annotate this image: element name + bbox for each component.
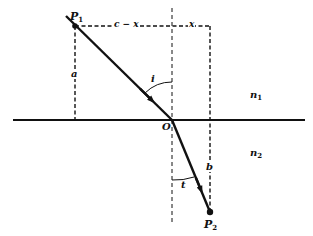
refraction-diagram	[0, 0, 313, 236]
label-x: x	[188, 20, 195, 29]
label-b: b	[206, 162, 213, 172]
incident-ray-arrow	[140, 89, 152, 101]
label-n2: n2	[250, 148, 262, 159]
label-n1: n1	[250, 90, 262, 101]
label-t: t	[181, 180, 186, 190]
label-p2: P2	[204, 219, 217, 231]
label-c-minus-x: c − x	[113, 20, 140, 29]
incident-ray	[66, 16, 172, 120]
point-p1	[72, 23, 78, 29]
refracted-ray	[172, 120, 210, 212]
label-o: O	[162, 122, 171, 132]
angle-i-arc	[145, 82, 172, 93]
refracted-ray-arrow	[196, 178, 201, 190]
label-a: a	[71, 69, 77, 79]
label-i: i	[151, 74, 155, 84]
label-p1: P1	[70, 11, 83, 23]
point-p2	[207, 209, 213, 215]
